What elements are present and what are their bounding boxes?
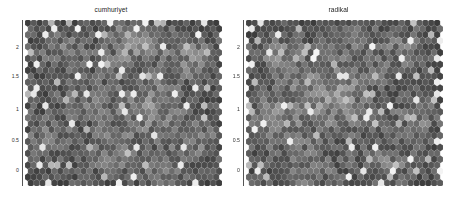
y-tick-label: 0.5 [227,138,240,143]
hexbin-plot-area-cumhuriyet [25,20,222,186]
y-tick-label: 1.5 [227,74,240,79]
y-tick-label: 2 [6,45,19,50]
y-axis-line-radikal [243,20,244,186]
y-tick-label: 2 [227,45,240,50]
panel-title-cumhuriyet: cumhuriyet [0,6,222,13]
figure-canvas: cumhuriyet 2 1.5 1 0.5 0 radikal 2 1.5 1… [0,0,456,201]
y-axis-line-cumhuriyet [22,20,23,186]
y-tick-label: 1.5 [6,74,19,79]
y-tick-label: 0 [6,168,19,173]
chart-panel-cumhuriyet: cumhuriyet 2 1.5 1 0.5 0 [0,0,222,201]
chart-panel-radikal: radikal 2 1.5 1 0.5 0 [221,0,456,201]
y-tick-label: 0.5 [6,138,19,143]
y-tick-label: 1 [227,107,240,112]
y-tick-label: 0 [227,168,240,173]
hexbin-plot-area-radikal [246,20,443,186]
panel-title-radikal: radikal [221,6,456,13]
y-tick-label: 1 [6,107,19,112]
